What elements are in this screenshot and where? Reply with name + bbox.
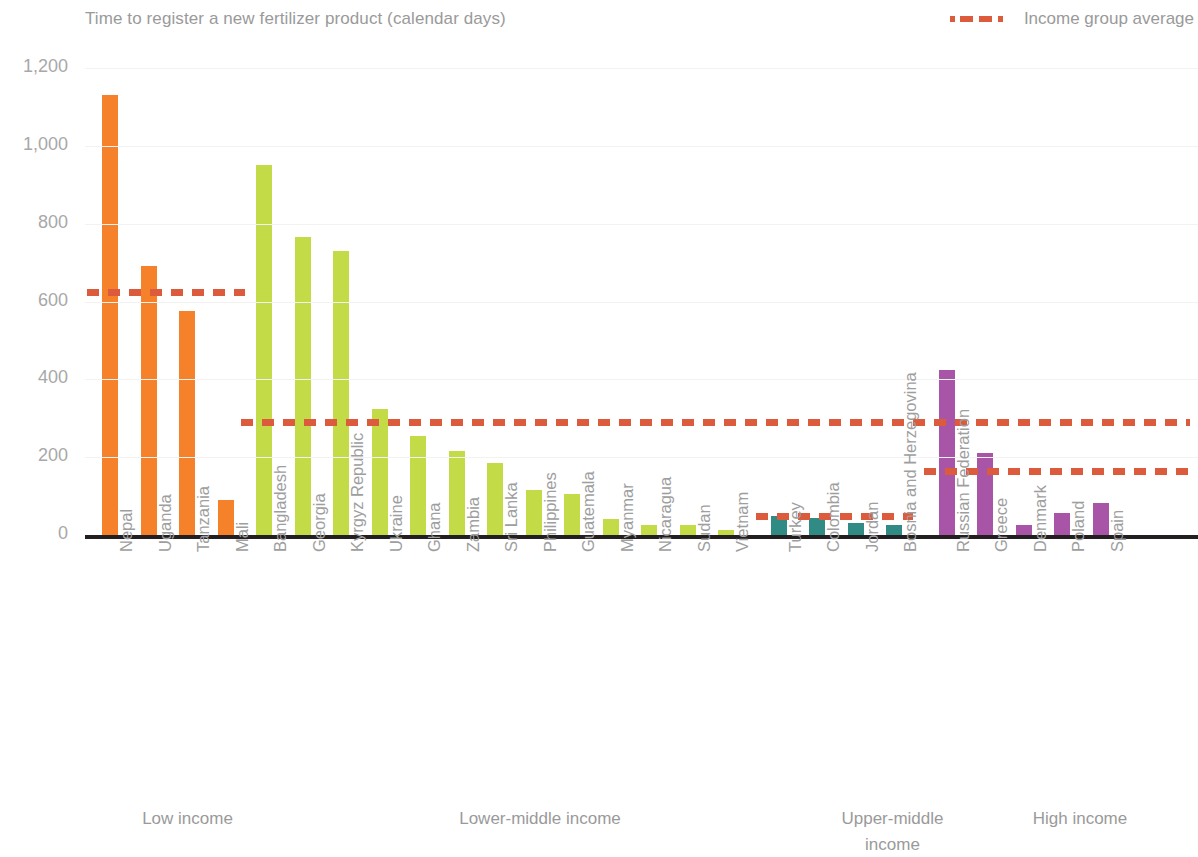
y-axis-tick-1200: 1,200: [0, 57, 68, 75]
fertilizer-registration-chart: Time to register a new fertilizer produc…: [0, 0, 1198, 857]
x-axis-label-colombia: Colombia: [798, 540, 836, 559]
group-label-lower-middle-income: Lower-middle income: [300, 806, 780, 832]
x-axis-label-ukraine: Ukraine: [361, 540, 399, 559]
gridline: [85, 224, 1198, 225]
bar-sudan[interactable]: [680, 525, 696, 535]
x-axis-label-turkey: Turkey: [760, 540, 798, 559]
x-axis-label-ghana: Ghana: [399, 540, 437, 559]
x-axis-label-spain: Spain: [1082, 540, 1120, 559]
x-axis-label-sri-lanka: Sri Lanka: [476, 540, 514, 559]
bar-nicaragua[interactable]: [641, 525, 657, 535]
bar-mali[interactable]: [218, 500, 234, 535]
y-axis-tick-1000: 1,000: [0, 135, 68, 153]
x-axis-label-greece: Greece: [966, 540, 1004, 559]
bar-zambia[interactable]: [449, 451, 465, 535]
x-axis-label-georgia: Georgia: [284, 540, 322, 559]
x-axis-label-myanmar: Myanmar: [592, 540, 630, 559]
gridline: [85, 379, 1198, 380]
bar-sri-lanka[interactable]: [487, 463, 503, 535]
bar-uganda[interactable]: [141, 266, 157, 535]
group-label-upper-middle-line1: Upper-middle: [841, 809, 943, 828]
average-line-low-income: [87, 289, 245, 296]
x-axis-label-denmark: Denmark: [1005, 540, 1043, 559]
chart-legend: Income group average: [950, 9, 1194, 29]
x-axis-label-bangladesh: Bangladesh: [245, 540, 283, 559]
bar-kyrgyz-republic[interactable]: [333, 251, 349, 535]
x-axis-label-sudan: Sudan: [669, 540, 707, 559]
x-axis-label-philippines: Philippines: [515, 540, 553, 559]
group-label-high-income: High income: [985, 806, 1175, 832]
average-line-lower-middle-income: [241, 419, 1190, 426]
bar-guatemala[interactable]: [564, 494, 580, 535]
y-axis-tick-400: 400: [0, 368, 68, 386]
group-label-upper-middle-income: Upper-middle income: [810, 806, 975, 857]
x-axis-label-nicaragua: Nicaragua: [630, 540, 668, 559]
x-axis-label-mali: Mali: [207, 540, 245, 559]
x-axis-label-zambia: Zambia: [438, 540, 476, 559]
y-axis-tick-200: 200: [0, 446, 68, 464]
bar-myanmar[interactable]: [603, 519, 619, 535]
bar-ukraine[interactable]: [372, 409, 388, 535]
x-axis-label-poland: Poland: [1043, 540, 1081, 559]
gridline: [85, 146, 1198, 147]
group-label-low-income: Low income: [85, 806, 290, 832]
bar-russian-federation[interactable]: [939, 370, 955, 535]
bar-georgia[interactable]: [295, 237, 311, 535]
x-axis-labels: NepalUgandaTanzaniaMaliBangladeshGeorgia…: [85, 540, 1198, 810]
y-axis-tick-0: 0: [0, 524, 68, 542]
bar-denmark[interactable]: [1016, 525, 1032, 535]
y-axis-tick-800: 800: [0, 213, 68, 231]
bar-bangladesh[interactable]: [256, 165, 272, 535]
bar-nepal[interactable]: [102, 95, 118, 535]
x-axis-label-guatemala: Guatemala: [553, 540, 591, 559]
x-axis-label-bosnia-and-herzegovina: Bosnia and Herzegovina: [875, 540, 913, 559]
legend-label-income-group-average: Income group average: [1024, 9, 1194, 29]
legend-dashed-line-icon: [950, 16, 1002, 22]
chart-title: Time to register a new fertilizer produc…: [85, 9, 506, 29]
x-axis-label-text: Vietnam: [733, 540, 752, 552]
x-axis-label-jordan: Jordan: [837, 540, 875, 559]
bar-philippines[interactable]: [526, 490, 542, 535]
bar-ghana[interactable]: [410, 436, 426, 535]
x-axis-label-tanzania: Tanzania: [168, 540, 206, 559]
y-axis-tick-600: 600: [0, 291, 68, 309]
group-label-upper-middle-line2: income: [865, 835, 920, 854]
bar-spain[interactable]: [1093, 503, 1109, 535]
x-axis-label-vietnam: Vietnam: [707, 540, 745, 559]
bar-jordan[interactable]: [848, 523, 864, 535]
gridline: [85, 302, 1198, 303]
x-axis-label-kyrgyz-republic: Kyrgyz Republic: [322, 540, 360, 559]
x-axis-label-text: Spain: [1108, 540, 1127, 552]
x-axis-label-nepal: Nepal: [91, 540, 129, 559]
bar-tanzania[interactable]: [179, 311, 195, 535]
plot-area: [85, 68, 1198, 535]
income-group-labels: Low income Lower-middle income Upper-mid…: [0, 806, 1198, 857]
x-axis-label-russian-federation: Russian Federation: [928, 540, 966, 559]
x-axis-label-uganda: Uganda: [130, 540, 168, 559]
bar-bosnia-and-herzegovina[interactable]: [886, 525, 902, 535]
bar-poland[interactable]: [1054, 513, 1070, 535]
gridline: [85, 68, 1198, 69]
gridline: [85, 457, 1198, 458]
x-axis-label-text: Bosnia and Herzegovina: [901, 540, 920, 552]
bar-greece[interactable]: [977, 453, 993, 536]
